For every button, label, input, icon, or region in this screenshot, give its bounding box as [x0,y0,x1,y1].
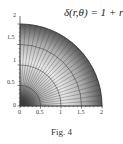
plot-title: δ(r,θ) = 1 + r [64,6,123,18]
polar-plot [0,0,123,144]
y-tick-label: 1 [13,57,16,63]
y-tick-label: 1.5 [7,34,15,40]
x-tick-label: 0 [18,109,21,115]
y-tick-label: 0 [13,102,16,108]
x-tick-label: 2 [100,109,103,115]
x-tick-label: 1 [59,109,62,115]
y-tick-label: 0.5 [7,79,15,85]
x-tick-label: 1.5 [77,109,85,115]
figure-caption: Fig. 4 [0,127,123,137]
y-tick-label: 2 [13,12,16,18]
x-tick-label: 0.5 [36,109,44,115]
